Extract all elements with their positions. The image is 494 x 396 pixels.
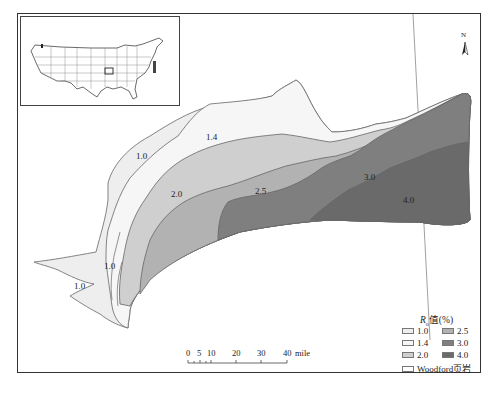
legend-item-2-5: 2.5: [442, 326, 468, 336]
legend-item-2-0: 2.0: [402, 350, 428, 360]
zone-label: 3.0: [364, 172, 375, 182]
swatch: [402, 328, 414, 334]
zone-label: 1.0: [104, 261, 115, 271]
scale-ruler: [180, 358, 300, 366]
scale-tick-label: 20: [232, 348, 241, 358]
legend-label: 1.4: [417, 338, 428, 348]
legend-label: 2.5: [457, 326, 468, 336]
swatch: [402, 340, 414, 346]
scale-unit: mile: [295, 348, 310, 358]
north-arrow-icon: [460, 33, 474, 63]
legend-label: 2.0: [417, 350, 428, 360]
swatch: [442, 328, 454, 334]
legend-label: Woodford页岩: [417, 362, 471, 375]
legend-item-1-0: 1.0: [402, 326, 428, 336]
legend-item-4-0: 4.0: [442, 350, 468, 360]
scale-tick-label: 0: [186, 348, 190, 358]
legend-title: Ro值(%): [420, 312, 453, 327]
legend-item-3-0: 3.0: [442, 338, 468, 348]
swatch: [402, 366, 414, 372]
scale-tick-label: 30: [257, 348, 266, 358]
scale-bar: 0 5 10 20 30 40 mile: [180, 348, 320, 370]
legend-item-woodford: Woodford页岩: [402, 362, 471, 375]
swatch: [402, 352, 414, 358]
legend-title-unit: 值(%): [429, 315, 453, 325]
scale-tick-label: 10: [207, 348, 216, 358]
zone-label: 1.0: [136, 151, 147, 161]
zone-label: 4.0: [403, 195, 414, 205]
zone-label: 2.0: [171, 189, 182, 199]
zone-label: 2.5: [255, 186, 266, 196]
scale-tick-label: 5: [197, 348, 201, 358]
legend-label: 4.0: [457, 350, 468, 360]
legend-item-1-4: 1.4: [402, 338, 428, 348]
zone-label: 1.4: [206, 132, 217, 142]
zone-label: 1.0: [74, 281, 85, 291]
woodford-ro-map: [0, 0, 494, 396]
swatch: [442, 340, 454, 346]
scale-tick-label: 40: [283, 348, 292, 358]
legend-label: 1.0: [417, 326, 428, 336]
swatch: [442, 352, 454, 358]
legend-label: 3.0: [457, 338, 468, 348]
